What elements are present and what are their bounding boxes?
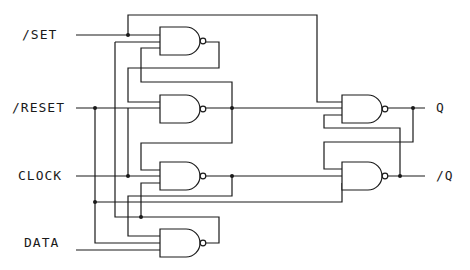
reset-label: /RESET: [12, 101, 65, 115]
clock-label: CLOCK: [18, 169, 62, 183]
q-label: Q: [436, 101, 445, 115]
circuit-diagram: [0, 0, 470, 270]
qbar-label: /Q: [436, 169, 454, 183]
nand-gate-3: [160, 162, 206, 190]
set-label: /SET: [22, 28, 57, 42]
nand-gate-4: [160, 229, 206, 257]
nand-gate-qbar: [342, 162, 388, 190]
nand-gate-2: [160, 95, 206, 123]
reset-branch-wire: [95, 108, 342, 202]
data-label: DATA: [24, 236, 59, 250]
g4-to-g3-wire: [141, 183, 160, 217]
nand-gate-q: [342, 95, 388, 123]
nand-gate-1: [160, 27, 206, 55]
